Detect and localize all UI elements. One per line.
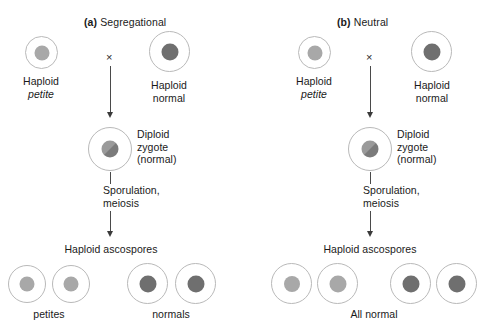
- panel-a-sporulation-label: Sporulation, meiosis: [103, 184, 203, 209]
- nucleus: [64, 277, 79, 292]
- panel-a-haploid-petite-label: Haploid petite: [1, 75, 81, 100]
- nucleus: [329, 275, 346, 292]
- panel-b-tag: (b): [337, 16, 351, 28]
- panel-b-ascospore-3: [390, 263, 431, 304]
- nucleus: [362, 141, 379, 158]
- panel-b-outcome-all-normal: All normal: [331, 308, 417, 321]
- panel-b-sporulation-line-upper: [370, 172, 371, 184]
- figure-root: (a) Segregational Haploid petite × Haplo…: [0, 0, 488, 334]
- panel-b-ascospore-1: [271, 263, 312, 304]
- label-line-2: petite: [1, 88, 81, 101]
- panel-a-title-text: Segregational: [100, 16, 166, 28]
- panel-a-diploid-zygote-label: Diploid zygote (normal): [137, 128, 223, 166]
- panel-a-cross-to-zygote-arrowhead: [107, 112, 113, 118]
- label-line-2: zygote: [137, 141, 223, 154]
- nucleus: [20, 277, 35, 292]
- label-line-1: Haploid: [392, 79, 472, 92]
- process-line-2: meiosis: [103, 197, 203, 210]
- label-line-3: (normal): [137, 153, 223, 166]
- panel-a: (a) Segregational Haploid petite × Haplo…: [0, 0, 244, 334]
- process-line-1: Sporulation,: [363, 184, 463, 197]
- process-line-1: Sporulation,: [103, 184, 203, 197]
- panel-a-diploid-zygote-cell: [88, 127, 132, 171]
- panel-b-cross-to-zygote-line: [370, 66, 371, 114]
- panel-a-ascospore-2: [52, 265, 90, 303]
- panel-b-sporulation-label: Sporulation, meiosis: [363, 184, 463, 209]
- nucleus: [102, 141, 119, 158]
- panel-b-haploid-normal-label: Haploid normal: [392, 79, 472, 104]
- panel-b-sporulation-line-lower: [370, 211, 371, 233]
- label-line-1: Haploid: [274, 75, 354, 88]
- nucleus: [187, 275, 204, 292]
- label-line-2: zygote: [397, 141, 483, 154]
- panel-a-haploid-normal-label: Haploid normal: [129, 79, 209, 104]
- nucleus: [161, 43, 178, 60]
- label-line-2: petite: [274, 88, 354, 101]
- label-line-2: normal: [129, 92, 209, 105]
- panel-b-haploid-normal-cell: [411, 31, 452, 72]
- panel-a-sporulation-line-lower: [110, 211, 111, 233]
- label-line-1: Diploid: [397, 128, 483, 141]
- nucleus: [307, 45, 322, 60]
- panel-b-cross-symbol: ×: [366, 52, 372, 63]
- label-line-3: (normal): [397, 153, 483, 166]
- panel-b-title-text: Neutral: [354, 16, 389, 28]
- nucleus: [34, 45, 49, 60]
- panel-a-cross-to-zygote-line: [110, 66, 111, 114]
- nucleus: [423, 43, 440, 60]
- process-line-2: meiosis: [363, 197, 463, 210]
- panel-a-outcome-petites: petites: [9, 308, 89, 321]
- panel-b-haploid-petite-cell: [298, 36, 331, 69]
- panel-b-ascospore-4: [436, 263, 477, 304]
- label-line-1: Diploid: [137, 128, 223, 141]
- panel-a-sporulation-arrowhead: [107, 231, 113, 237]
- panel-b-sporulation-arrowhead: [367, 231, 373, 237]
- panel-a-haploid-petite-cell: [25, 36, 58, 69]
- panel-b-diploid-zygote-label: Diploid zygote (normal): [397, 128, 483, 166]
- panel-a-tag: (a): [84, 16, 97, 28]
- label-line-2: normal: [392, 92, 472, 105]
- panel-a-ascospores-title: Haploid ascospores: [48, 243, 174, 256]
- panel-b-ascospore-2: [317, 263, 358, 304]
- nucleus: [448, 275, 465, 292]
- nucleus: [139, 275, 156, 292]
- nucleus: [402, 275, 419, 292]
- panel-b-diploid-zygote-cell: [348, 127, 392, 171]
- panel-a-title: (a) Segregational: [84, 16, 166, 28]
- panel-b-haploid-petite-label: Haploid petite: [274, 75, 354, 100]
- panel-a-sporulation-line-upper: [110, 172, 111, 184]
- panel-a-outcome-normals: normals: [131, 308, 211, 321]
- panel-a-ascospore-4: [175, 263, 216, 304]
- label-line-1: Haploid: [129, 79, 209, 92]
- nucleus: [284, 276, 300, 292]
- panel-a-ascospore-3: [127, 263, 168, 304]
- panel-a-cross-symbol: ×: [106, 52, 112, 63]
- panel-b-cross-to-zygote-arrowhead: [367, 112, 373, 118]
- panel-a-ascospore-1: [8, 265, 46, 303]
- panel-b: (b) Neutral Haploid petite × Haploid nor…: [244, 0, 488, 334]
- panel-b-title: (b) Neutral: [337, 16, 388, 28]
- panel-a-haploid-normal-cell: [149, 31, 190, 72]
- label-line-1: Haploid: [1, 75, 81, 88]
- panel-b-ascospores-title: Haploid ascospores: [307, 243, 433, 256]
